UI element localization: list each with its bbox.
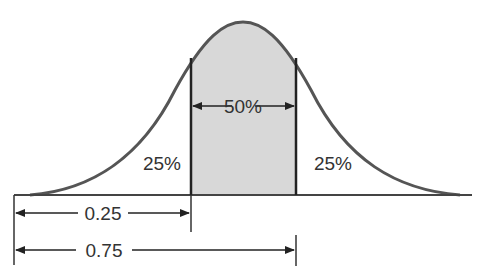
left-tail-percent-label: 25% — [143, 153, 181, 174]
middle-percent-label: 50% — [224, 96, 262, 117]
right-tail-percent-label: 25% — [314, 153, 352, 174]
dim-025-label: 0.25 — [85, 203, 122, 224]
normal-curve-diagram: 50% 25% 25% 0.25 0.75 — [0, 0, 486, 276]
dim-075-label: 0.75 — [86, 240, 123, 261]
